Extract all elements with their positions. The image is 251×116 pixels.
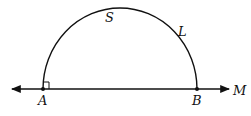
point-b	[195, 87, 199, 91]
label-s: S	[105, 10, 114, 25]
label-l: L	[177, 24, 187, 39]
label-a: A	[37, 93, 47, 108]
label-m: M	[232, 83, 247, 98]
point-a	[41, 87, 45, 91]
geometry-diagram: S L A B M	[0, 0, 251, 116]
arc-ab	[43, 8, 197, 89]
label-b: B	[191, 93, 202, 108]
